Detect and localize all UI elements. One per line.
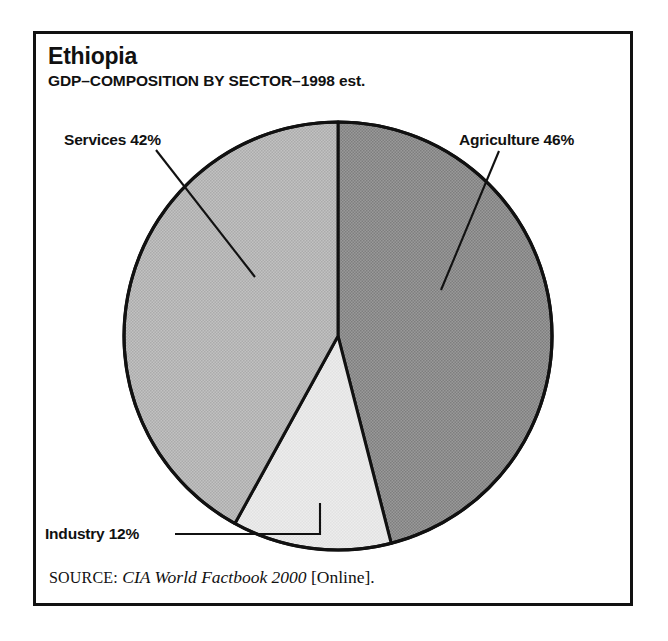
pie-chart-figure: Ethiopia GDP–COMPOSITION BY SECTOR–1998 … — [0, 0, 668, 641]
pie-graphic — [0, 0, 668, 641]
source-kicker: SOURCE: — [49, 569, 118, 586]
source-title: CIA World Factbook 2000 — [122, 567, 306, 587]
source-note: SOURCE: CIA World Factbook 2000 [Online]… — [49, 567, 375, 588]
source-medium: [Online]. — [311, 567, 375, 587]
pie-label-services: Services 42% — [64, 131, 161, 149]
pie-label-agriculture: Agriculture 46% — [459, 131, 574, 149]
pie-label-industry: Industry 12% — [45, 525, 139, 543]
